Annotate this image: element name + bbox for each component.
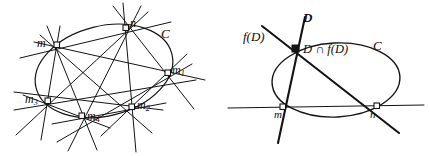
label-m3-base: m bbox=[25, 92, 34, 106]
label-m4-sub: 4 bbox=[96, 115, 100, 124]
label-m1: m1 bbox=[172, 64, 185, 78]
label-m2-sub: 2 bbox=[146, 104, 150, 113]
label-n-left: n bbox=[130, 17, 136, 29]
figure-svg bbox=[0, 0, 430, 156]
label-conic-c-right: C bbox=[373, 39, 382, 52]
label-m3-sub: 3 bbox=[34, 98, 38, 107]
line-d bbox=[278, 17, 305, 143]
label-m4-base: m bbox=[87, 109, 96, 123]
label-intersection: D ∩ f(D) bbox=[303, 43, 348, 56]
label-conic-c-left: C bbox=[161, 27, 170, 40]
conic-c-left bbox=[25, 10, 183, 131]
label-m-right: m bbox=[274, 109, 282, 120]
label-m1-base: m bbox=[172, 63, 181, 77]
node-m1 bbox=[165, 70, 171, 76]
node-m2 bbox=[129, 104, 135, 110]
chord-n-m1 bbox=[113, 6, 194, 109]
label-n-right: n bbox=[370, 109, 376, 120]
node-m3 bbox=[45, 98, 51, 104]
label-m-left: m bbox=[37, 37, 46, 49]
label-line-d: D bbox=[303, 11, 312, 24]
label-m3: m3 bbox=[25, 93, 38, 107]
node-n bbox=[123, 25, 129, 31]
line-mn bbox=[228, 105, 424, 108]
node-m bbox=[54, 42, 60, 48]
label-line-fd: f(D) bbox=[243, 30, 265, 43]
figure-container: m n m1 m2 m3 m4 C D f(D) D ∩ f(D) C m n bbox=[0, 0, 430, 156]
node-m4 bbox=[79, 113, 85, 119]
node-intersection bbox=[292, 45, 299, 52]
label-m4: m4 bbox=[87, 110, 100, 124]
label-m1-sub: 1 bbox=[181, 69, 185, 78]
label-m2: m2 bbox=[137, 99, 150, 113]
label-m2-base: m bbox=[137, 98, 146, 112]
